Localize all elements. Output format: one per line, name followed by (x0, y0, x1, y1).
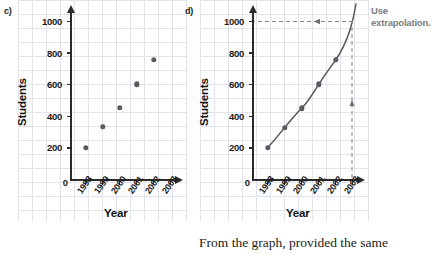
figure-root: c) 1000 800 600 400 200 0 1998 1999 2000… (0, 0, 438, 263)
y-tick-label-200-c: 200 (28, 142, 62, 153)
x-tick-label-2000-c: 2000 (109, 174, 128, 195)
data-point-2002-c (151, 57, 156, 62)
y-tick-1000-c (67, 21, 72, 22)
y-tick-label-600-c: 600 (28, 79, 62, 90)
y-tick-label-400-c: 400 (28, 111, 62, 122)
dashed-guide-vertical-arrow-d (349, 100, 354, 106)
data-point-1999-c (100, 124, 105, 129)
y-tick-400-c (67, 116, 72, 117)
panel-c-letter: c) (4, 6, 12, 16)
scatter-chart-c: 1000 800 600 400 200 0 1998 1999 2000 20… (18, 0, 187, 221)
y-tick-label-800-c: 800 (28, 48, 62, 59)
x-axis-title-c: Year (104, 207, 128, 219)
panel-d-letter: d) (185, 6, 193, 16)
x-tick-label-1999-c: 1999 (92, 174, 111, 195)
trend-curve-group-d (200, 0, 369, 221)
y-tick-600-c (67, 84, 72, 85)
figure-caption: From the graph, provided the same (199, 235, 388, 251)
data-point-2000-c (117, 105, 122, 110)
extrapolation-note: Use extrapolation. (371, 5, 437, 28)
y-axis-c (70, 13, 72, 180)
trend-curve-d (268, 4, 356, 148)
data-point-2001-c (134, 82, 139, 87)
y-tick-label-1000-c: 1000 (28, 16, 62, 27)
data-point-1998-c (83, 145, 88, 150)
dashed-guide-horizontal-arrow-d (314, 19, 320, 24)
y-tick-800-c (67, 52, 72, 53)
y-axis-arrow-c (67, 5, 75, 13)
x-tick-label-2002-c: 2002 (143, 174, 162, 195)
x-tick-label-2003-c: 2003 (160, 174, 179, 195)
x-tick-label-2001-c: 2001 (126, 174, 145, 195)
line-chart-d: 1000 800 600 400 200 0 1998 1999 2000 20… (200, 0, 369, 221)
y-tick-200-c (67, 147, 72, 148)
y-origin-label-c: 0 (54, 177, 68, 188)
x-tick-label-1998-c: 1998 (75, 174, 94, 195)
y-axis-title-c: Students (16, 78, 28, 126)
